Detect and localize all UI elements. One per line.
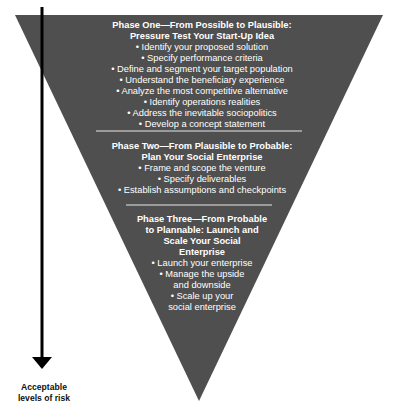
phase-one-subtitle: Pressure Test Your Start-Up Idea — [0, 31, 404, 42]
phase-one-item: • Define and segment your target populat… — [0, 64, 404, 75]
risk-axis-label: Acceptable levels of risk — [2, 382, 86, 404]
phase-three-item: • Scale up your — [0, 291, 404, 302]
phase-one-item: • Identify your proposed solution — [0, 42, 404, 53]
down-arrow-icon — [32, 357, 52, 369]
risk-label-line: levels of risk — [2, 393, 86, 404]
phase-three: Phase Three—From Probable to Plannable: … — [0, 214, 404, 313]
phase-one: Phase One—From Possible to Plausible: Pr… — [0, 20, 404, 130]
phase-two: Phase Two—From Plausible to Probable: Pl… — [0, 141, 404, 196]
phase-three-item: social enterprise — [0, 302, 404, 313]
phase-two-title: Phase Two—From Plausible to Probable: — [0, 141, 404, 152]
phase-one-title: Phase One—From Possible to Plausible: — [0, 20, 404, 31]
phase-three-item: • Manage the upside — [0, 269, 404, 280]
risk-label-line: Acceptable — [2, 382, 86, 393]
phase-three-title: to Plannable: Launch and — [0, 225, 404, 236]
phase-two-item: • Frame and scope the venture — [0, 163, 404, 174]
phase-three-title: Phase Three—From Probable — [0, 214, 404, 225]
phase-one-item: • Develop a concept statement — [0, 119, 404, 130]
phase-two-item: • Specify deliverables — [0, 174, 404, 185]
phase-one-item: • Analyze the most competitive alternati… — [0, 86, 404, 97]
phase-one-item: • Address the inevitable sociopolitics — [0, 108, 404, 119]
phase-two-item: • Establish assumptions and checkpoints — [0, 185, 404, 196]
phase-one-item: • Specify performance criteria — [0, 53, 404, 64]
phase-three-item: and downside — [0, 280, 404, 291]
phase-one-item: • Identify operations realities — [0, 97, 404, 108]
phase-one-item: • Understand the beneficiary experience — [0, 75, 404, 86]
phase-three-item: • Launch your enterprise — [0, 258, 404, 269]
phase-three-title: Enterprise — [0, 247, 404, 258]
phase-three-title: Scale Your Social — [0, 236, 404, 247]
phase-two-subtitle: Plan Your Social Enterprise — [0, 152, 404, 163]
